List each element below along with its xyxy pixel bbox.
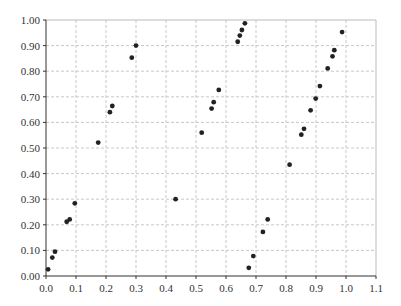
grid-lines <box>46 20 376 276</box>
data-point <box>134 43 139 48</box>
data-point <box>96 140 101 145</box>
y-axis-ticks: 0.000.100.200.300.400.500.600.700.800.90… <box>21 14 46 282</box>
x-tick-label: 1.1 <box>369 282 383 294</box>
data-point <box>108 110 113 115</box>
x-tick-label: 0.5 <box>189 282 203 294</box>
x-axis-ticks: 0.00.10.20.30.40.50.60.70.80.91.01.1 <box>39 276 383 294</box>
data-point <box>209 106 214 111</box>
data-point <box>313 96 318 101</box>
x-tick-label: 0.6 <box>219 282 233 294</box>
x-tick-label: 0.3 <box>129 282 143 294</box>
y-tick-label: 0.90 <box>21 40 41 52</box>
y-tick-label: 0.40 <box>21 168 41 180</box>
x-tick-label: 0.4 <box>159 282 173 294</box>
data-point <box>235 39 240 44</box>
data-point <box>299 132 304 137</box>
y-tick-label: 0.20 <box>21 219 41 231</box>
data-point <box>173 197 178 202</box>
y-tick-label: 1.00 <box>21 14 41 26</box>
x-tick-label: 0.1 <box>69 282 83 294</box>
y-tick-label: 0.70 <box>21 91 41 103</box>
data-point <box>72 201 77 206</box>
scatter-chart: 0.00.10.20.30.40.50.60.70.80.91.01.1 0.0… <box>0 0 401 306</box>
data-point <box>50 255 55 260</box>
x-tick-label: 0.0 <box>39 282 53 294</box>
x-tick-label: 0.9 <box>309 282 323 294</box>
data-point <box>332 48 337 53</box>
x-tick-label: 1.0 <box>339 282 353 294</box>
data-point <box>318 84 323 89</box>
data-point <box>240 28 245 33</box>
data-point <box>243 21 248 26</box>
data-point <box>53 249 58 254</box>
y-tick-label: 0.30 <box>21 193 41 205</box>
data-point <box>287 162 292 167</box>
y-tick-label: 0.50 <box>21 142 41 154</box>
y-tick-label: 0.80 <box>21 65 41 77</box>
data-point <box>46 267 51 272</box>
y-tick-label: 0.10 <box>21 244 41 256</box>
y-tick-label: 0.00 <box>21 270 41 282</box>
data-point <box>216 87 221 92</box>
data-point <box>330 54 335 59</box>
data-point <box>237 33 242 38</box>
x-tick-label: 0.8 <box>279 282 293 294</box>
data-point <box>246 265 251 270</box>
x-tick-label: 0.2 <box>99 282 113 294</box>
y-tick-label: 0.60 <box>21 116 41 128</box>
data-points <box>46 21 345 272</box>
data-point <box>67 217 72 222</box>
data-point <box>251 254 256 259</box>
data-point <box>261 230 266 235</box>
data-point <box>308 108 313 113</box>
x-tick-label: 0.7 <box>249 282 263 294</box>
data-point <box>129 55 134 60</box>
data-point <box>199 130 204 135</box>
data-point <box>325 66 330 71</box>
data-point <box>211 100 216 105</box>
data-point <box>110 104 115 109</box>
data-point <box>340 30 345 35</box>
data-point <box>302 126 307 131</box>
data-point <box>265 217 270 222</box>
